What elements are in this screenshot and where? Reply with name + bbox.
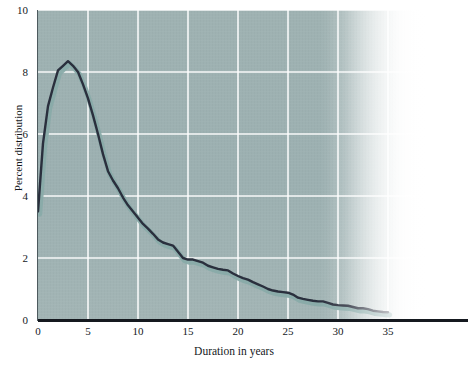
y-axis-label: Percent distribution <box>12 78 24 218</box>
x-tick-label: 10 <box>126 325 150 337</box>
x-tick-label: 20 <box>226 325 250 337</box>
y-tick-label: 0 <box>4 314 28 326</box>
cropped-title-remnant <box>0 0 468 6</box>
data-curve <box>38 10 428 320</box>
x-tick-label: 30 <box>326 325 350 337</box>
x-axis-label: Duration in years <box>0 345 468 358</box>
x-tick-label: 25 <box>276 325 300 337</box>
y-axis-line <box>37 10 38 321</box>
y-tick-label: 8 <box>4 66 28 78</box>
x-tick-label: 15 <box>176 325 200 337</box>
plot-area <box>38 10 428 320</box>
x-axis-line <box>38 319 468 322</box>
x-tick-label: 5 <box>76 325 100 337</box>
x-tick-label: 0 <box>26 325 50 337</box>
x-tick-label: 35 <box>376 325 400 337</box>
y-tick-label: 2 <box>4 252 28 264</box>
chart-figure: 0246810 05101520253035 Percent distribut… <box>0 0 468 365</box>
y-tick-label: 10 <box>4 4 28 16</box>
